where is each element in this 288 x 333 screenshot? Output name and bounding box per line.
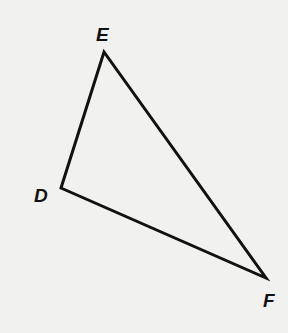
vertex-label-d: D: [34, 185, 48, 206]
triangle-def: [61, 52, 266, 278]
diagram-canvas: E D F: [0, 0, 288, 333]
vertex-label-e: E: [96, 24, 110, 45]
triangle-diagram: E D F: [0, 0, 288, 333]
vertex-label-f: F: [263, 290, 276, 311]
